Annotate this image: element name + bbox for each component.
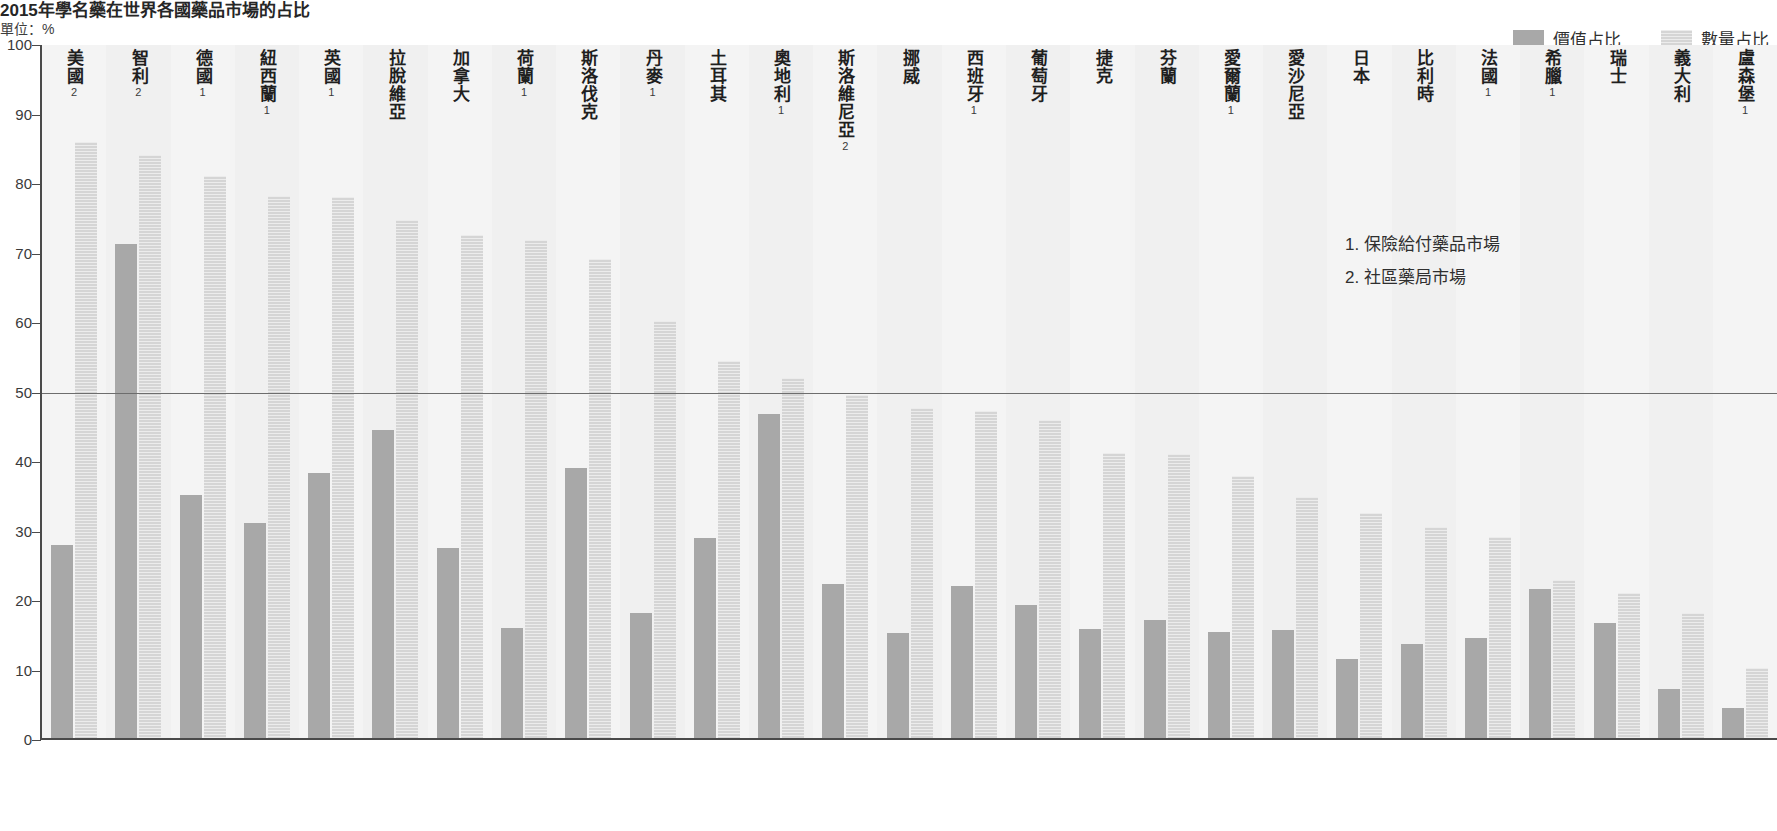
y-axis-tick-label: 0 bbox=[24, 731, 32, 748]
y-axis-tick bbox=[32, 323, 41, 324]
bar-volume-share[interactable] bbox=[1103, 453, 1125, 740]
bar-value-share[interactable] bbox=[1401, 644, 1423, 740]
bar-value-share[interactable] bbox=[115, 244, 137, 740]
bar-volume-share[interactable] bbox=[1168, 454, 1190, 740]
bar-value-share[interactable] bbox=[372, 430, 394, 740]
chart-plot-area: 美國2智利2德國1紐西蘭1英國1拉脫維亞加拿大荷蘭1斯洛伐克丹麥1土耳其奧地利1… bbox=[40, 45, 1777, 740]
y-axis-tick-label: 60 bbox=[15, 314, 32, 331]
bar-volume-share[interactable] bbox=[1232, 476, 1254, 740]
y-axis-tick bbox=[32, 462, 41, 463]
bar-value-share[interactable] bbox=[822, 584, 844, 740]
y-axis-tick bbox=[32, 601, 41, 602]
bar-volume-share[interactable] bbox=[846, 395, 868, 740]
bar-value-share[interactable] bbox=[501, 628, 523, 740]
bar-volume-share[interactable] bbox=[718, 361, 740, 740]
bar-value-share[interactable] bbox=[1529, 589, 1551, 741]
y-axis-tick-label: 40 bbox=[15, 453, 32, 470]
footnotes: 1. 保險給付藥品市場 2. 社區藥局市場 bbox=[1345, 228, 1500, 294]
y-axis-tick bbox=[32, 671, 41, 672]
footnote-2: 2. 社區藥局市場 bbox=[1345, 261, 1500, 294]
bar-volume-share[interactable] bbox=[332, 197, 354, 740]
bar-volume-share[interactable] bbox=[1296, 497, 1318, 740]
y-axis-tick bbox=[32, 115, 41, 116]
bar-volume-share[interactable] bbox=[1360, 513, 1382, 740]
bar-value-share[interactable] bbox=[1015, 605, 1037, 740]
y-axis-tick-label: 10 bbox=[15, 662, 32, 679]
bar-volume-share[interactable] bbox=[1682, 613, 1704, 740]
bar-value-share[interactable] bbox=[437, 548, 459, 741]
bar-value-share[interactable] bbox=[694, 538, 716, 740]
y-axis-tick bbox=[32, 45, 41, 46]
bar-value-share[interactable] bbox=[887, 633, 909, 740]
bar-value-share[interactable] bbox=[1465, 638, 1487, 740]
y-axis-tick bbox=[32, 740, 41, 741]
bar-value-share[interactable] bbox=[1272, 630, 1294, 740]
bar-value-share[interactable] bbox=[51, 545, 73, 740]
bar-value-share[interactable] bbox=[951, 586, 973, 740]
y-axis-tick-label: 100 bbox=[7, 36, 32, 53]
y-axis-tick bbox=[32, 532, 41, 533]
unit-label: 單位：% bbox=[0, 18, 54, 38]
bar-volume-share[interactable] bbox=[654, 321, 676, 740]
y-axis-tick bbox=[32, 184, 41, 185]
bar-volume-share[interactable] bbox=[975, 411, 997, 740]
bar-value-share[interactable] bbox=[758, 414, 780, 740]
bar-volume-share[interactable] bbox=[782, 378, 804, 740]
y-axis-tick-label: 90 bbox=[15, 106, 32, 123]
bar-value-share[interactable] bbox=[308, 473, 330, 740]
y-axis-tick-label: 80 bbox=[15, 175, 32, 192]
bar-value-share[interactable] bbox=[1594, 623, 1616, 740]
bar-volume-share[interactable] bbox=[589, 259, 611, 740]
bar-volume-share[interactable] bbox=[268, 196, 290, 740]
bar-value-share[interactable] bbox=[1336, 659, 1358, 740]
bar-volume-share[interactable] bbox=[75, 142, 97, 740]
bar-volume-share[interactable] bbox=[461, 235, 483, 740]
bar-volume-share[interactable] bbox=[204, 176, 226, 740]
bar-value-share[interactable] bbox=[630, 613, 652, 740]
bar-volume-share[interactable] bbox=[1618, 593, 1640, 740]
y-axis-tick bbox=[32, 254, 41, 255]
bar-volume-share[interactable] bbox=[1553, 580, 1575, 740]
bar-volume-share[interactable] bbox=[396, 220, 418, 740]
y-axis-tick-label: 70 bbox=[15, 245, 32, 262]
bar-value-share[interactable] bbox=[1079, 629, 1101, 740]
bar-volume-share[interactable] bbox=[1039, 420, 1061, 740]
bar-value-share[interactable] bbox=[180, 495, 202, 740]
bar-value-share[interactable] bbox=[1722, 708, 1744, 740]
footnote-1: 1. 保險給付藥品市場 bbox=[1345, 228, 1500, 261]
bar-value-share[interactable] bbox=[1144, 620, 1166, 740]
bar-value-share[interactable] bbox=[1208, 632, 1230, 740]
bar-value-share[interactable] bbox=[1658, 689, 1680, 740]
bar-volume-share[interactable] bbox=[1489, 537, 1511, 740]
y-axis-tick-label: 20 bbox=[15, 592, 32, 609]
bar-volume-share[interactable] bbox=[139, 155, 161, 740]
y-axis-tick bbox=[32, 393, 41, 394]
bar-volume-share[interactable] bbox=[911, 408, 933, 740]
bar-volume-share[interactable] bbox=[1425, 527, 1447, 740]
bar-volume-share[interactable] bbox=[525, 240, 547, 740]
y-axis-tick-label: 30 bbox=[15, 523, 32, 540]
bar-volume-share[interactable] bbox=[1746, 668, 1768, 740]
bar-value-share[interactable] bbox=[565, 468, 587, 740]
x-axis-baseline bbox=[40, 738, 1777, 740]
reference-line-50 bbox=[40, 393, 1777, 394]
y-axis-tick-label: 50 bbox=[15, 384, 32, 401]
bar-value-share[interactable] bbox=[244, 523, 266, 740]
